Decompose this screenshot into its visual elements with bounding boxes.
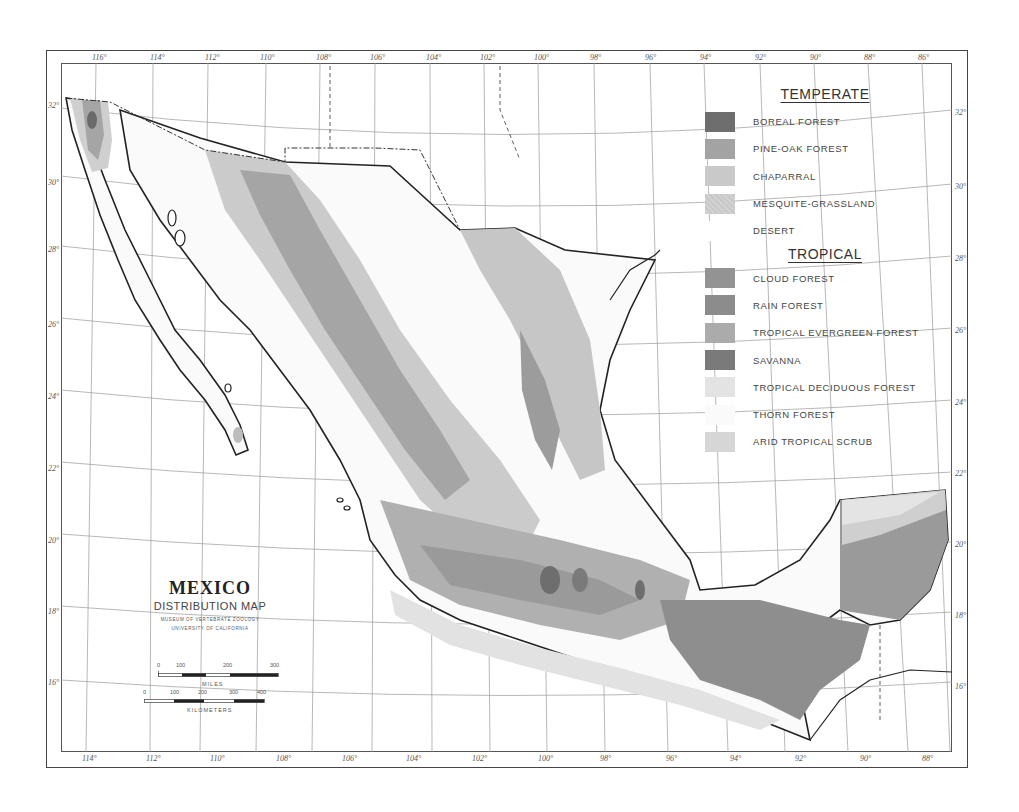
lat-tick: 22° — [48, 464, 59, 473]
legend-item-rain-forest: RAIN FOREST — [700, 292, 940, 319]
legend-swatch — [705, 194, 735, 214]
lon-tick: 96° — [666, 754, 677, 763]
map-title: MEXICO — [140, 578, 280, 599]
title-block: MEXICO DISTRIBUTION MAP MUSEUM OF VERTEB… — [140, 578, 280, 631]
lon-tick: 112° — [146, 754, 161, 763]
lat-tick: 24° — [48, 392, 59, 401]
legend-swatch — [705, 166, 735, 186]
scale-tick: 0 — [143, 689, 146, 695]
miles-label: MILES — [202, 681, 224, 687]
lon-tick: 90° — [860, 754, 871, 763]
legend-item-tropical-deciduous-forest: TROPICAL DECIDUOUS FOREST — [700, 374, 940, 401]
lat-tick: 32° — [955, 108, 966, 117]
legend-label: DESERT — [753, 225, 795, 236]
lat-tick: 18° — [48, 607, 59, 616]
lon-tick: 106° — [342, 754, 357, 763]
legend-label: BOREAL FOREST — [753, 116, 840, 127]
lon-tick: 104° — [406, 754, 421, 763]
legend-label: CHAPARRAL — [753, 171, 816, 182]
legend-swatch — [705, 405, 735, 425]
legend-swatch — [705, 295, 735, 315]
legend-swatch — [705, 268, 735, 288]
lon-tick: 88° — [864, 53, 875, 62]
lat-tick: 22° — [955, 469, 966, 478]
legend-label: ARID TROPICAL SCRUB — [753, 436, 873, 447]
kilometers-scale-bar — [144, 697, 266, 705]
legend-swatch — [705, 350, 735, 370]
lon-tick: 90° — [810, 53, 821, 62]
lon-tick: 100° — [538, 754, 553, 763]
lat-tick: 20° — [48, 536, 59, 545]
scale-tick: 0 — [157, 662, 160, 668]
lat-tick: 18° — [955, 611, 966, 620]
legend-item-desert: DESERT — [700, 217, 940, 244]
legend-swatch — [705, 432, 735, 452]
lon-tick: 92° — [755, 53, 766, 62]
lat-tick: 16° — [48, 678, 59, 687]
scale-tick: 200 — [223, 662, 232, 668]
legend-label: CLOUD FOREST — [753, 273, 835, 284]
scale-tick: 100 — [176, 662, 185, 668]
miles-scale-bar — [158, 671, 280, 679]
lon-tick: 102° — [480, 53, 495, 62]
legend-item-boreal-forest: BOREAL FOREST — [700, 108, 940, 135]
legend-item-tropical-evergreen-forest: TROPICAL EVERGREEN FOREST — [700, 319, 940, 346]
legend-swatch — [705, 323, 735, 343]
lat-tick: 28° — [955, 254, 966, 263]
lon-tick: 92° — [795, 754, 806, 763]
scale-tick: 200 — [198, 689, 207, 695]
lat-tick: 32° — [48, 101, 59, 110]
lon-tick: 88° — [922, 754, 933, 763]
lat-tick: 30° — [955, 182, 966, 191]
scale-tick: 100 — [170, 689, 179, 695]
map-subtitle: DISTRIBUTION MAP — [140, 600, 280, 612]
lon-tick: 110° — [210, 754, 225, 763]
legend-item-mesquite-grassland: MESQUITE-GRASSLAND — [700, 190, 940, 217]
lon-tick: 100° — [534, 53, 549, 62]
lon-tick: 108° — [276, 754, 291, 763]
lon-tick: 94° — [730, 754, 741, 763]
legend-swatch — [705, 112, 735, 132]
lat-tick: 26° — [955, 326, 966, 335]
legend-label: RAIN FOREST — [753, 300, 823, 311]
legend-item-cloud-forest: CLOUD FOREST — [700, 264, 940, 291]
legend-label: TROPICAL EVERGREEN FOREST — [753, 327, 919, 338]
lon-tick: 116° — [92, 53, 107, 62]
legend-swatch — [705, 221, 735, 241]
legend-label: THORN FOREST — [753, 409, 835, 420]
lat-tick: 24° — [955, 398, 966, 407]
lon-tick: 86° — [918, 53, 929, 62]
legend-label: PINE-OAK FOREST — [753, 143, 849, 154]
lon-tick: 94° — [700, 53, 711, 62]
legend-label: SAVANNA — [753, 355, 801, 366]
lon-tick: 114° — [82, 754, 97, 763]
legend-item-chaparral: CHAPARRAL — [700, 163, 940, 190]
legend-label: MESQUITE-GRASSLAND — [753, 198, 875, 209]
lat-tick: 26° — [48, 320, 59, 329]
lon-tick: 106° — [370, 53, 385, 62]
lon-tick: 98° — [600, 754, 611, 763]
lon-tick: 96° — [645, 53, 656, 62]
lon-tick: 112° — [205, 53, 220, 62]
lon-tick: 104° — [426, 53, 441, 62]
university-label: UNIVERSITY OF CALIFORNIA — [140, 626, 280, 631]
lat-tick: 16° — [955, 682, 966, 691]
legend-item-pine-oak-forest: PINE-OAK FOREST — [700, 135, 940, 162]
legend-heading-temperate: TEMPERATE — [745, 86, 905, 102]
lon-tick: 108° — [316, 53, 331, 62]
legend-item-savanna: SAVANNA — [700, 346, 940, 373]
legend-swatch — [705, 377, 735, 397]
legend-heading-tropical: TROPICAL — [745, 246, 905, 262]
scale-tick: 400 — [257, 689, 266, 695]
lon-tick: 114° — [150, 53, 165, 62]
us-state-line — [500, 66, 520, 160]
legend-swatch — [705, 139, 735, 159]
institution-label: MUSEUM OF VERTEBRATE ZOOLOGY — [140, 617, 280, 622]
lon-tick: 102° — [472, 754, 487, 763]
legend: TEMPERATE BOREAL FOREST PINE-OAK FOREST … — [700, 86, 940, 456]
lat-tick: 20° — [955, 540, 966, 549]
legend-item-thorn-forest: THORN FOREST — [700, 401, 940, 428]
legend-label: TROPICAL DECIDUOUS FOREST — [753, 382, 916, 393]
scale-tick: 300 — [270, 662, 279, 668]
kilometers-label: KILOMETERS — [187, 707, 232, 713]
